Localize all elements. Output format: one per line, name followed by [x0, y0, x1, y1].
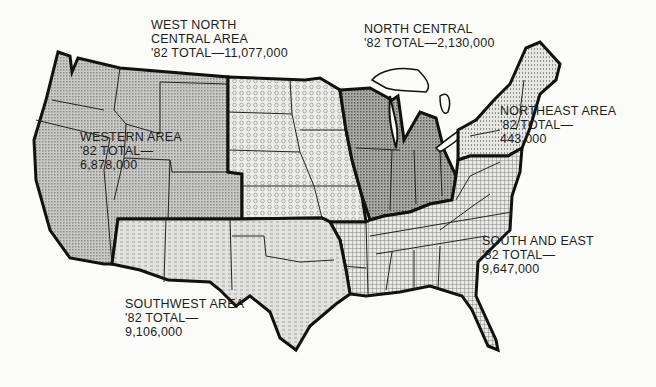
label-line: 443,000 [500, 132, 616, 146]
label-line: 9,647,000 [482, 262, 594, 276]
label-west-north-central: WEST NORTH CENTRAL AREA '82 TOTAL—11,077… [151, 18, 288, 60]
label-line: '82 TOTAL— [500, 118, 616, 132]
label-line: NORTH CENTRAL [364, 22, 495, 36]
label-north-central: NORTH CENTRAL '82 TOTAL—2,130,000 [364, 22, 495, 50]
us-region-map [0, 0, 656, 387]
label-northeast: NORTHEAST AREA '82 TOTAL— 443,000 [500, 104, 616, 146]
label-south-and-east: SOUTH AND EAST '82 TOTAL— 9,647,000 [482, 234, 594, 276]
label-line: 6,878,000 [80, 158, 182, 172]
label-line: WESTERN AREA [80, 130, 182, 144]
label-line: SOUTH AND EAST [482, 234, 594, 248]
label-line: WEST NORTH [151, 18, 288, 32]
label-southwest: SOUTHWEST AREA '82 TOTAL— 9,106,000 [125, 297, 244, 339]
label-line: NORTHEAST AREA [500, 104, 616, 118]
label-line: '82 TOTAL— [125, 311, 244, 325]
label-line: '82 TOTAL—2,130,000 [364, 36, 495, 50]
label-line: CENTRAL AREA [151, 32, 288, 46]
label-western: WESTERN AREA '82 TOTAL— 6,878,000 [80, 130, 182, 172]
label-line: 9,106,000 [125, 325, 244, 339]
label-line: SOUTHWEST AREA [125, 297, 244, 311]
label-line: '82 TOTAL— [482, 248, 594, 262]
label-line: '82 TOTAL— [80, 144, 182, 158]
label-line: '82 TOTAL—11,077,000 [151, 46, 288, 60]
